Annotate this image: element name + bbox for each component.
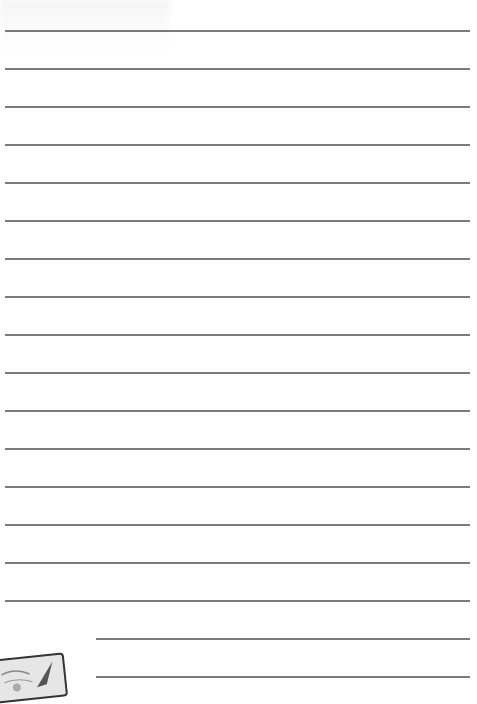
stamp-sketch-icon [0,655,66,702]
ruled-line [5,182,470,184]
ruled-line [5,144,470,146]
ruled-line [5,600,470,602]
ruled-line [5,448,470,450]
ruled-line [5,410,470,412]
ruled-line [96,676,470,678]
ruled-line [96,638,470,640]
ruled-line [5,258,470,260]
ruled-line [5,30,470,32]
ruled-line [5,296,470,298]
ruled-line [5,524,470,526]
ruled-line [5,68,470,70]
corner-stamp-image [0,652,68,703]
ruled-line [5,334,470,336]
ruled-line [5,372,470,374]
ruled-line [5,220,470,222]
ruled-line [5,486,470,488]
ruled-line [5,106,470,108]
ruled-line [5,562,470,564]
